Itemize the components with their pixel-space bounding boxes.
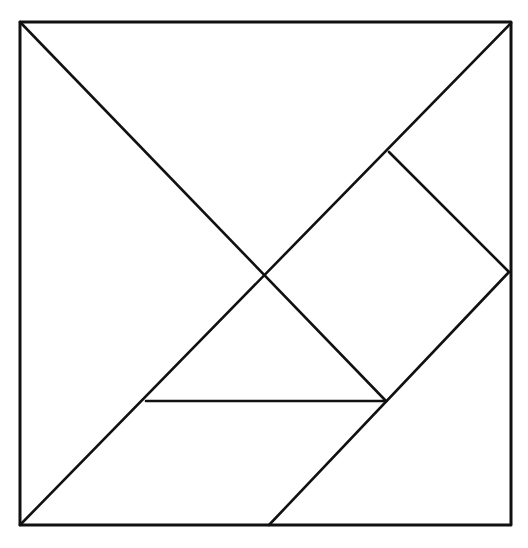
tangram-diagram	[0, 0, 528, 548]
